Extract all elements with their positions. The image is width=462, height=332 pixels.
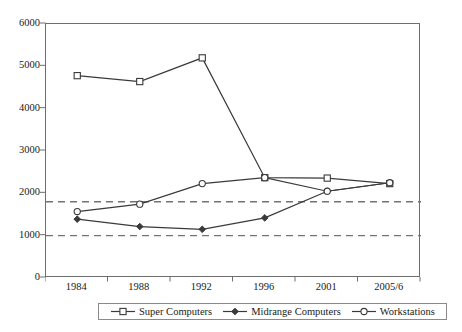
data-point xyxy=(137,201,143,207)
legend-entry: Super Computers xyxy=(110,306,212,317)
data-point xyxy=(120,308,126,314)
legend-marker-open-circle-icon xyxy=(351,306,377,317)
plot-svg xyxy=(46,24,421,278)
data-point xyxy=(136,223,143,230)
plot-area xyxy=(45,23,420,277)
data-point xyxy=(74,208,80,214)
data-point xyxy=(387,180,393,186)
y-axis: 0100020003000400050006000 xyxy=(0,0,40,332)
data-point xyxy=(74,73,80,79)
data-point xyxy=(137,78,143,84)
legend-marker-filled-diamond-icon xyxy=(222,306,248,317)
data-point xyxy=(199,226,206,233)
data-point xyxy=(324,175,330,181)
legend-marker-open-square-icon xyxy=(110,306,136,317)
data-point xyxy=(262,175,268,181)
chart-legend: Super ComputersMidrange ComputersWorksta… xyxy=(98,303,447,320)
data-point xyxy=(261,215,268,222)
series-line-super-computers xyxy=(77,58,390,184)
series-line-workstations xyxy=(77,178,390,212)
x-tick-marks xyxy=(45,277,422,285)
data-point xyxy=(232,308,239,315)
legend-label: Midrange Computers xyxy=(251,306,341,317)
data-point xyxy=(199,180,205,186)
data-point xyxy=(324,188,330,194)
data-point xyxy=(199,55,205,61)
chart-page: 0100020003000400050006000 19841988199219… xyxy=(0,0,462,332)
y-tick-marks xyxy=(0,0,46,332)
data-point xyxy=(361,308,367,314)
legend-entry: Workstations xyxy=(351,306,435,317)
legend-label: Workstations xyxy=(380,306,435,317)
legend-entry: Midrange Computers xyxy=(222,306,341,317)
legend-label: Super Computers xyxy=(139,306,212,317)
data-point xyxy=(74,216,81,223)
